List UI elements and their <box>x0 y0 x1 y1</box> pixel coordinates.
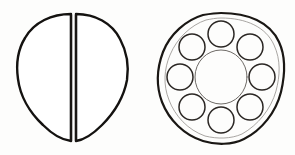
perforation-2 <box>237 34 263 60</box>
perforated-disc-inner-rim-hint <box>165 18 279 138</box>
perforation-5 <box>208 107 234 133</box>
perforation-3 <box>249 64 275 90</box>
artefact-line-drawing <box>0 0 295 155</box>
perforation-6 <box>179 94 205 120</box>
split-disc-figure <box>17 14 128 141</box>
central-bore <box>195 50 247 104</box>
perforation-7 <box>167 64 193 90</box>
perforation-1 <box>208 21 234 47</box>
split-disc-half-right <box>76 14 128 141</box>
perforated-disc-figure <box>158 13 284 144</box>
figure-canvas <box>0 0 295 155</box>
split-disc-half-left <box>17 14 71 141</box>
perforation-8 <box>179 34 205 60</box>
perforation-4 <box>237 94 263 120</box>
